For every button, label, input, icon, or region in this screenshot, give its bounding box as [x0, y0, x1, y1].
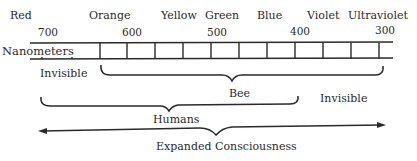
diagram-artwork — [0, 0, 417, 161]
color-label-orange: Orange — [89, 10, 130, 21]
color-label-green: Green — [205, 10, 239, 21]
ruler-top-line — [30, 42, 393, 43]
light-spectrum-diagram: RedOrangeYellowGreenBlueVioletUltraviole… — [0, 0, 417, 161]
color-label-red: Red — [10, 10, 32, 21]
color-label-blue: Blue — [257, 10, 282, 21]
wavelength-tick-300: 300 — [375, 25, 395, 36]
humans-label: Humans — [153, 114, 199, 125]
nanometer-ruler — [30, 42, 393, 59]
ruler-dividers — [42, 43, 379, 59]
wavelength-tick-600: 600 — [122, 27, 142, 38]
expanded-consciousness-arrow — [38, 122, 386, 135]
color-label-violet: Violet — [307, 10, 339, 21]
wavelength-tick-700: 700 — [38, 27, 58, 38]
arrowhead-right-icon — [377, 122, 386, 128]
bee-label: Bee — [229, 88, 250, 99]
nanometers-label: Nanometers — [2, 46, 74, 58]
bee-range-brace — [101, 65, 383, 81]
left-invisible-label: Invisible — [40, 68, 87, 79]
arrowhead-left-icon — [38, 128, 47, 134]
expanded-consciousness-label: Expanded Consciousness — [156, 141, 297, 152]
color-label-yellow: Yellow — [161, 10, 197, 21]
color-label-ultraviolet: Ultraviolet — [348, 10, 408, 21]
wavelength-tick-500: 500 — [207, 27, 227, 38]
wavelength-tick-400: 400 — [290, 26, 310, 37]
humans-range-brace — [41, 96, 298, 111]
right-invisible-label: Invisible — [320, 93, 367, 104]
